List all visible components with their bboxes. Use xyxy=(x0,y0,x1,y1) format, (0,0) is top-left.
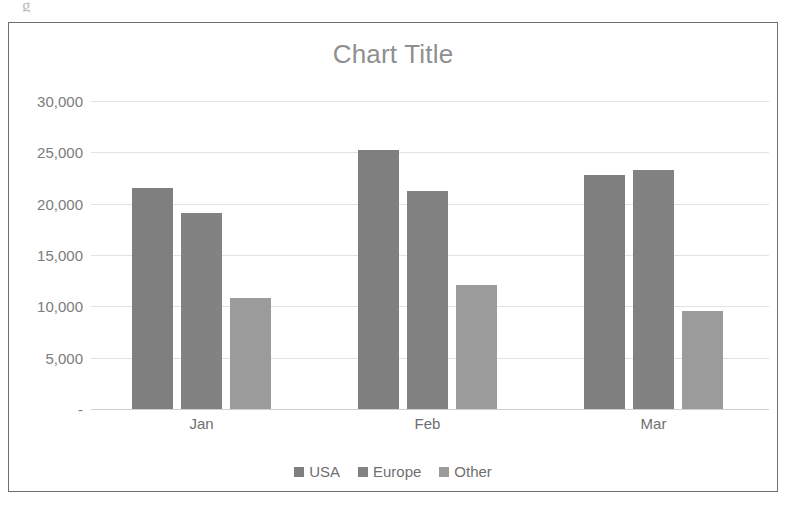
x-axis-label-mar: Mar xyxy=(641,415,667,432)
y-axis-tick-label: 15,000 xyxy=(11,247,83,264)
legend-item-other[interactable]: Other xyxy=(439,463,492,480)
legend-label: USA xyxy=(309,463,340,480)
bar-europe-feb[interactable] xyxy=(407,191,448,409)
bar-usa-jan[interactable] xyxy=(132,188,173,409)
legend-label: Europe xyxy=(373,463,421,480)
x-axis-label-feb: Feb xyxy=(415,415,441,432)
bars-layer xyxy=(91,101,769,409)
legend-item-europe[interactable]: Europe xyxy=(358,463,421,480)
legend-swatch-icon xyxy=(439,467,449,477)
bar-usa-feb[interactable] xyxy=(358,150,399,409)
legend-label: Other xyxy=(454,463,492,480)
bar-other-feb[interactable] xyxy=(456,285,497,409)
y-axis-tick-label: 10,000 xyxy=(11,298,83,315)
legend-swatch-icon xyxy=(294,467,304,477)
bar-europe-mar[interactable] xyxy=(633,170,674,409)
gridline xyxy=(91,409,769,410)
y-axis-tick-label: - xyxy=(11,401,83,418)
bar-usa-mar[interactable] xyxy=(584,175,625,409)
chart-frame: Chart Title 30,00025,00020,00015,00010,0… xyxy=(8,22,778,492)
legend-item-usa[interactable]: USA xyxy=(294,463,340,480)
chart-legend: USAEuropeOther xyxy=(9,463,777,480)
x-axis-label-jan: Jan xyxy=(189,415,213,432)
y-axis: 30,00025,00020,00015,00010,0005,000- xyxy=(9,101,83,409)
y-axis-tick-label: 30,000 xyxy=(11,93,83,110)
scan-artifact: g xyxy=(22,0,48,12)
y-axis-tick-label: 25,000 xyxy=(11,144,83,161)
bar-other-mar[interactable] xyxy=(682,311,723,409)
bar-other-jan[interactable] xyxy=(230,298,271,409)
legend-swatch-icon xyxy=(358,467,368,477)
x-axis: JanFebMar xyxy=(91,415,769,439)
chart-title: Chart Title xyxy=(9,39,777,70)
y-axis-tick-label: 20,000 xyxy=(11,195,83,212)
y-axis-tick-label: 5,000 xyxy=(11,349,83,366)
bar-europe-jan[interactable] xyxy=(181,213,222,409)
